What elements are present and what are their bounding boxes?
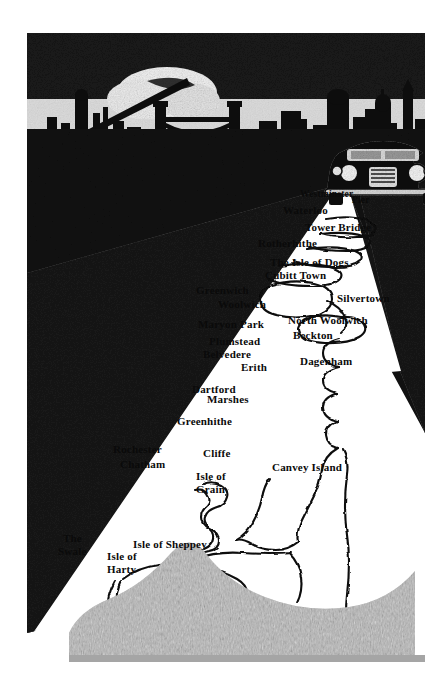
thames-estuary-illustration: WestminsterPierWaterlooTower BridgeRothe… [27,33,425,662]
map-label-erith: Erith [241,362,267,373]
map-label-grain: Grain [196,484,225,495]
map-label-chatham: Chatham [120,459,165,470]
map-label-north-woolwich: North Woolwich [288,315,368,326]
map-label-the-isle-of-dogs: The Isle of Dogs [270,257,349,268]
map-label-cliffe: Cliffe [203,448,230,459]
map-label-greenhithe: Greenhithe [177,416,232,427]
map-label-tower-bridge: Tower Bridge [305,222,371,233]
map-label-pier: Pier [352,196,370,206]
map-label-cubitt-town: Cubitt Town [265,270,326,281]
map-label-isle-of: Isle of [107,551,137,562]
map-label-westminster: Westminster [300,190,353,200]
map-label-isle-of: Isle of [196,471,226,482]
map-label-beckton: Beckton [293,330,333,341]
map-label-rotherhithe: Rotherhithe [258,238,317,249]
map-label-the: The [63,533,82,544]
map-label-isle-of-sheppey: Isle of Sheppey [133,539,207,550]
map-label-waterloo: Waterloo [283,205,328,216]
map-label-dagenham: Dagenham [300,356,352,367]
map-label-harty: Harty [107,564,136,575]
map-label-silvertown: Silvertown [337,293,390,304]
map-label-rochester: Rochester [113,444,162,455]
map-label-swale: Swale [58,546,87,557]
map-label-maryon-park: Maryon Park [198,319,264,330]
map-label-greenwich: Greenwich [196,285,249,296]
map-label-marshes: Marshes [207,394,249,405]
map-label-woolwich: Woolwich [218,299,266,310]
map-label-belvedere: Belvedere [203,349,251,360]
map-label-plumstead: Plumstead [209,336,260,347]
map-label-canvey-island: Canvey Island [272,462,342,473]
